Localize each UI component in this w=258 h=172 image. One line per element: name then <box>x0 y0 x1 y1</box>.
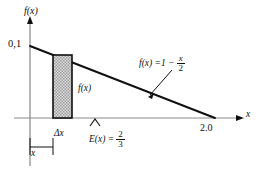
figure-canvas: f(x) 0,1 f(x) f(x) =1 − x 2 2.0 x Δx x E… <box>0 0 258 172</box>
equation-denominator: 2 <box>177 64 186 73</box>
equation-lhs: f(x) =1 − <box>139 59 175 69</box>
expected-value-lhs: E(x) = <box>89 135 114 145</box>
equation-leader-line <box>150 70 172 95</box>
shaded-rectangle <box>53 55 72 118</box>
x-end-label: 2.0 <box>200 123 213 133</box>
expected-value-caret <box>90 119 100 126</box>
expected-value-numerator: 2 <box>116 130 125 139</box>
expected-value-fraction: 2 3 <box>116 130 125 149</box>
x-axis-label: x <box>246 110 250 120</box>
bar-width-label: Δx <box>54 129 64 139</box>
expected-value-denominator: 3 <box>116 140 125 149</box>
bar-offset-label: x <box>31 149 35 159</box>
bar-height-label: f(x) <box>78 84 91 94</box>
expected-value-label: E(x) = 2 3 <box>89 130 125 149</box>
equation-fraction: x 2 <box>177 54 186 73</box>
equation-label: f(x) =1 − x 2 <box>139 54 185 73</box>
diagram-svg <box>0 0 258 172</box>
equation-numerator: x <box>177 54 185 63</box>
y-intercept-label: 0,1 <box>8 39 21 50</box>
y-axis-label: f(x) <box>24 6 38 16</box>
